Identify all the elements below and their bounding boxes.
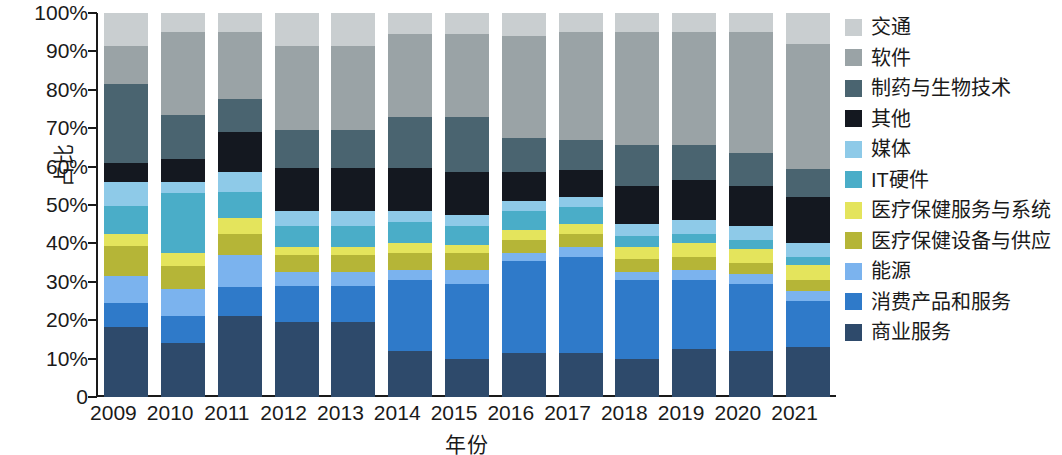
bar-segment [672,234,716,244]
bar-segment [104,327,148,396]
x-axis-tick-labels: 2009201020112012201320142015201620172018… [98,401,836,431]
bar-segment [388,351,432,397]
bar-segment [331,255,375,272]
bar-2021[interactable] [786,13,830,397]
bar-segment [218,13,262,32]
bar-2010[interactable] [161,13,205,397]
bar-segment [445,253,489,270]
legend-swatch-icon [845,110,862,127]
bar-segment [729,32,773,153]
bar-segment [729,13,773,32]
bar-segment [445,34,489,117]
bar-segment [388,13,432,34]
bar-segment [786,265,830,280]
bar-segment [331,322,375,397]
bar-segment [104,84,148,162]
bar-segment [218,132,262,172]
bar-segment [161,159,205,182]
bar-segment [672,32,716,145]
legend-label: 医疗保健服务与系统 [871,200,1051,220]
bar-segment [559,170,603,197]
bar-segment [445,215,489,227]
bar-2012[interactable] [275,13,319,397]
legend-item[interactable]: 商业服务 [845,317,1060,348]
bar-2011[interactable] [218,13,262,397]
bar-2017[interactable] [559,13,603,397]
y-axis-tick-label: 60% [46,156,88,177]
bar-segment [786,301,830,347]
bar-segment [672,145,716,180]
bar-segment [672,220,716,233]
legend-label: 软件 [871,48,911,68]
bar-segment [331,46,375,130]
legend-item[interactable]: 媒体 [845,134,1060,165]
bar-segment [615,280,659,359]
bar-segment [729,351,773,397]
bar-2016[interactable] [502,13,546,397]
legend-item[interactable]: 制药与生物技术 [845,73,1060,104]
legend-swatch-icon [845,141,862,158]
legend-item[interactable]: 其他 [845,104,1060,135]
bar-segment [104,234,148,246]
bar-segment [502,13,546,36]
bar-2015[interactable] [445,13,489,397]
bar-segment [672,243,716,256]
bar-segment [729,274,773,284]
bar-segment [786,13,830,44]
y-axis-tick-label: 100% [34,2,88,23]
bar-segment [445,226,489,245]
bar-segment [275,272,319,285]
legend-item[interactable]: 医疗保健设备与供应 [845,226,1060,257]
legend-item[interactable]: 软件 [845,43,1060,74]
bar-2009[interactable] [104,13,148,397]
bar-segment [559,234,603,247]
legend-item[interactable]: IT硬件 [845,165,1060,196]
bar-segment [104,206,148,234]
bar-2020[interactable] [729,13,773,397]
bar-segment [104,46,148,85]
legend-item[interactable]: 消费产品和服务 [845,287,1060,318]
legend-label: 交通 [871,17,911,37]
legend-item[interactable]: 能源 [845,256,1060,287]
bar-segment [502,138,546,173]
bar-segment [218,99,262,132]
legend-item[interactable]: 交通 [845,12,1060,43]
legend-label: 制药与生物技术 [871,78,1011,98]
bar-segment [388,280,432,351]
bar-segment [161,182,205,194]
bar-segment [786,257,830,265]
bar-segment [672,180,716,220]
y-axis-tick-label: 20% [46,309,88,330]
bar-2013[interactable] [331,13,375,397]
bar-segment [331,226,375,247]
bar-segment [331,286,375,322]
legend-label: 其他 [871,109,911,129]
bar-segment [615,32,659,145]
bar-segment [559,140,603,171]
bar-segment [729,284,773,351]
bar-segment [331,130,375,168]
stacked-bar-chart: 占比 010%20%30%40%50%60%70%80%90%100% 2009… [0,0,1062,455]
bar-segment [729,240,773,250]
bar-segment [786,243,830,256]
bar-2018[interactable] [615,13,659,397]
bar-segment [275,211,319,226]
bar-segment [218,218,262,233]
legend-label: 媒体 [871,139,911,159]
bar-segment [331,211,375,226]
bar-segment [729,186,773,226]
bar-segment [559,197,603,207]
bar-segment [672,349,716,397]
legend-swatch-icon [845,49,862,66]
legend-item[interactable]: 医疗保健服务与系统 [845,195,1060,226]
bar-segment [445,13,489,34]
bar-segment [388,222,432,243]
bar-segment [502,36,546,138]
bar-segment [615,247,659,259]
bar-segment [104,182,148,205]
y-axis-tick-label: 70% [46,117,88,138]
bar-2019[interactable] [672,13,716,397]
bar-2014[interactable] [388,13,432,397]
bar-segment [615,272,659,280]
bar-segment [615,145,659,185]
